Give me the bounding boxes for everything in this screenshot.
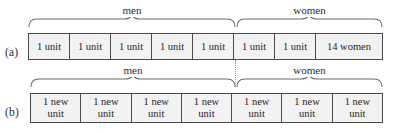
row-b-cell: 1 new unit	[31, 94, 81, 122]
row-a-units-strip: 1 unit 1 unit 1 unit 1 unit 1 unit 1 uni…	[28, 33, 383, 60]
row-a-cell: 1 unit	[152, 34, 193, 59]
row-a-group-caption-men: men	[28, 4, 236, 16]
row-b-group-caption-women: women	[236, 64, 383, 76]
units-comparison-figure: (a) men women 1 unit 1 unit 1 unit 1 uni…	[0, 0, 395, 133]
row-a-brace-men	[28, 17, 236, 28]
row-a-cell: 1 unit	[29, 34, 70, 59]
row-a-cell-women-count: 14 women	[316, 34, 382, 59]
row-a-cell: 1 unit	[70, 34, 111, 59]
row-a-cell: 1 unit	[275, 34, 316, 59]
row-b-units-strip: 1 new unit 1 new unit 1 new unit 1 new u…	[30, 93, 383, 123]
row-b-cell: 1 new unit	[182, 94, 232, 122]
row-a-cell: 1 unit	[234, 34, 275, 59]
row-label-b: (b)	[5, 106, 19, 118]
row-a-cell: 1 unit	[193, 34, 234, 59]
row-b-cell: 1 new unit	[132, 94, 182, 122]
row-a-brace-women	[236, 17, 383, 28]
row-a-cell: 1 unit	[111, 34, 152, 59]
row-b-group-caption-men: men	[30, 64, 236, 76]
row-b-cell: 1 new unit	[282, 94, 332, 122]
row-b-brace-women	[236, 77, 383, 88]
row-b-brace-men	[30, 77, 236, 88]
row-b-cell: 1 new unit	[81, 94, 131, 122]
row-b-cell: 1 new unit	[232, 94, 282, 122]
row-b-cell: 1 new unit	[333, 94, 382, 122]
row-a-group-caption-women: women	[236, 4, 383, 16]
row-label-a: (a)	[5, 46, 18, 58]
